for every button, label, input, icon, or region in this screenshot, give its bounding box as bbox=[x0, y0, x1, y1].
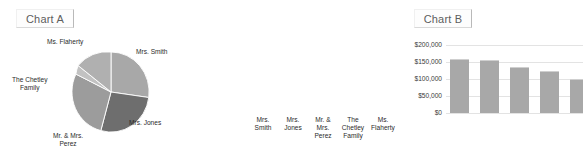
pie-label-jones: Mrs. Jones bbox=[129, 119, 161, 127]
x-tick-line: Family bbox=[338, 132, 368, 140]
x-tick-jones: Mrs. Jones bbox=[278, 116, 308, 132]
x-tick-line: Chetley bbox=[338, 124, 368, 132]
x-tick-line: Ms. bbox=[368, 116, 398, 124]
pie-label-flaherty: Ms. Flaherty bbox=[47, 38, 83, 46]
chart-a-title: Chart A bbox=[16, 9, 74, 28]
x-tick-line: Mrs. bbox=[308, 124, 338, 132]
pie-label-chetley: The Chetley Family bbox=[12, 76, 48, 92]
pie-label-perez-line2: Perez bbox=[53, 140, 83, 148]
x-tick-line: Mr. & bbox=[308, 116, 338, 124]
x-tick-smith: Mrs. Smith bbox=[248, 116, 278, 132]
x-tick-line: Jones bbox=[278, 124, 308, 132]
pie-label-chetley-line2: Family bbox=[12, 84, 48, 92]
x-tick-line: The bbox=[338, 116, 368, 124]
chart-c-panel: Chart C $700,000 $600,000 $500,000 $400,… bbox=[400, 0, 583, 167]
x-tick-flaherty: Ms. Flaherty bbox=[368, 116, 398, 132]
x-tick-line: Flaherty bbox=[368, 124, 398, 132]
pie-slice-smith bbox=[111, 52, 149, 98]
pie-label-perez-line1: Mr. & Mrs. bbox=[53, 132, 83, 140]
x-tick-chetley: The Chetley Family bbox=[338, 116, 368, 140]
x-tick-line: Mrs. bbox=[248, 116, 278, 124]
chart-b-panel: Chart B $200,000 $150,000 $100,000 $50,0… bbox=[200, 0, 400, 167]
pie-label-smith: Mrs. Smith bbox=[136, 48, 168, 56]
chart-a-panel: Chart A Ms. Flaherty Mrs. Smith Mrs. Jon… bbox=[0, 0, 200, 167]
x-tick-line: Perez bbox=[308, 132, 338, 140]
x-tick-line: Smith bbox=[248, 124, 278, 132]
x-tick-line: Mrs. bbox=[278, 116, 308, 124]
pie-label-perez: Mr. & Mrs. Perez bbox=[53, 132, 83, 148]
x-tick-perez: Mr. & Mrs. Perez bbox=[308, 116, 338, 140]
pie-label-chetley-line1: The Chetley bbox=[12, 76, 48, 84]
